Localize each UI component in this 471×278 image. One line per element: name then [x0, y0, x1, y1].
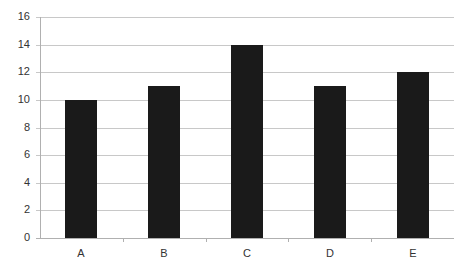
y-tick-label: 10 [0, 93, 30, 105]
x-tick-label: D [310, 247, 350, 259]
x-axis-line [36, 238, 454, 239]
gridline [36, 17, 454, 18]
x-tick-label: A [61, 247, 101, 259]
x-tick-label: C [227, 247, 267, 259]
bar-e [397, 72, 429, 238]
y-tick-label: 2 [0, 203, 30, 215]
bar-chart: 0246810121416 ABCDE [0, 0, 471, 278]
bar-d [314, 86, 346, 238]
y-tick-label: 6 [0, 148, 30, 160]
bar-c [231, 45, 263, 238]
bar-b [148, 86, 180, 238]
x-tick-label: B [144, 247, 184, 259]
y-tick-label: 0 [0, 231, 30, 243]
bar-a [65, 100, 97, 238]
y-tick-label: 16 [0, 10, 30, 22]
y-tick-label: 14 [0, 38, 30, 50]
x-tick-label: E [393, 247, 433, 259]
y-tick-label: 4 [0, 176, 30, 188]
y-tick-label: 8 [0, 121, 30, 133]
y-axis-line [40, 17, 41, 239]
y-tick-label: 12 [0, 65, 30, 77]
